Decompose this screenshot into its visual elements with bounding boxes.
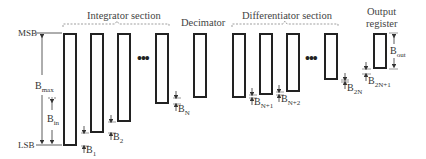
msb-label: MSB <box>18 29 37 38</box>
integrator-section-title: Integrator section <box>87 11 161 22</box>
b1-label: B1 <box>86 145 96 155</box>
output-register-title-line2: register <box>366 19 398 30</box>
differentiator-register-1 <box>232 33 246 98</box>
cic-bit-pruning-diagram: Integrator section Decimator Differentia… <box>0 0 426 159</box>
bn2-label: BN+2 <box>281 94 300 104</box>
output-register <box>373 33 387 69</box>
bin-label: Bin <box>47 114 59 124</box>
integrator-register-2 <box>90 33 104 133</box>
differentiator-ellipsis: ••• <box>305 52 317 66</box>
integrator-register-1 <box>63 33 77 146</box>
b2-label: B2 <box>113 132 123 142</box>
differentiator-register-2 <box>259 33 273 95</box>
bn1-label: BN+1 <box>254 97 273 107</box>
output-register-title-line1: Output <box>367 7 396 18</box>
differentiator-register-3 <box>286 33 300 92</box>
integrator-register-n <box>155 33 169 104</box>
integrator-ellipsis: ••• <box>137 52 149 66</box>
decimator-register <box>193 33 207 98</box>
lsb-label: LSB <box>18 141 35 150</box>
b2n1-label: B2N+1 <box>368 76 391 86</box>
differentiator-section-title: Differentiator section <box>242 11 332 22</box>
b2n-label: B2N <box>347 83 362 93</box>
bn-label: BN <box>178 104 190 114</box>
integrator-register-3 <box>117 33 131 122</box>
differentiator-register-n <box>324 33 338 80</box>
bout-label: Bout <box>390 46 406 56</box>
bmax-label: Bmax <box>35 81 54 91</box>
decimator-title: Decimator <box>181 18 225 29</box>
